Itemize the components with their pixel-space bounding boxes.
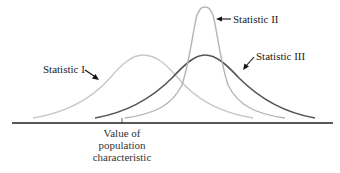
label-line-2: population <box>77 139 167 151</box>
arrow-statistic-1 <box>85 70 99 80</box>
label-line-1: Value of <box>77 127 167 139</box>
label-statistic-2: Statistic II <box>233 13 279 25</box>
curve-statistic-3 <box>95 55 315 118</box>
label-line-3: characteristic <box>77 151 167 163</box>
sampling-distribution-diagram <box>0 0 340 173</box>
population-characteristic-label: Value of population characteristic <box>77 127 167 163</box>
arrow-statistic-3 <box>243 57 254 70</box>
label-statistic-1: Statistic I <box>43 63 85 75</box>
arrow-statistic-2 <box>216 17 231 22</box>
label-statistic-3: Statistic III <box>256 50 305 62</box>
